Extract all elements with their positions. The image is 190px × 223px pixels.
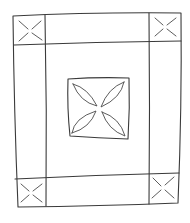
bottom-horizontal-line <box>15 173 179 179</box>
quilt-diagram: Quilt layout sketch <box>0 0 190 223</box>
corner-block-bottom-left <box>21 184 42 202</box>
quilt-sketch <box>0 0 190 223</box>
petal-top-left <box>73 84 97 106</box>
corner-block-top-left <box>19 21 42 41</box>
petal-bottom-right <box>102 112 125 136</box>
corner-block-bottom-right <box>152 177 174 198</box>
center-block <box>68 78 130 139</box>
petal-top-right <box>101 82 124 107</box>
top-horizontal-line <box>14 41 181 45</box>
four-petal-flower-icon <box>72 82 125 136</box>
corner-block-top-right <box>155 18 176 36</box>
petal-bottom-left <box>72 111 96 133</box>
